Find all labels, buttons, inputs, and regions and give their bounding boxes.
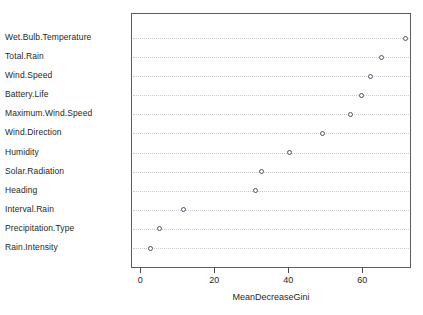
x-axis-tick-label: 40 <box>283 275 293 285</box>
y-axis-tick-label: Rain.Intensity <box>5 242 129 252</box>
gridline <box>133 95 409 96</box>
y-axis-category-labels: Wet.Bulb.TemperatureTotal.RainWind.Speed… <box>5 13 129 268</box>
data-point <box>253 188 258 193</box>
gridline <box>133 38 409 39</box>
gridline <box>133 172 409 173</box>
y-axis-tick-label: Humidity <box>5 147 129 157</box>
x-axis-title: MeanDecreaseGini <box>131 292 411 302</box>
y-axis-tick-label: Maximum.Wind.Speed <box>5 108 129 118</box>
data-point <box>403 36 408 41</box>
x-axis-tick <box>362 268 363 273</box>
data-point <box>368 74 373 79</box>
chart-title-clipped <box>131 0 411 9</box>
gridline <box>133 133 409 134</box>
y-axis-tick-label: Precipitation.Type <box>5 223 129 233</box>
data-point <box>379 55 384 60</box>
data-point <box>348 112 353 117</box>
y-axis-tick-label: Battery.Life <box>5 89 129 99</box>
gridline <box>133 114 409 115</box>
x-axis-tick <box>214 268 215 273</box>
gridline <box>133 210 409 211</box>
data-point <box>148 246 153 251</box>
y-axis-tick-label: Wind.Speed <box>5 70 129 80</box>
y-axis-tick-label: Heading <box>5 185 129 195</box>
data-point <box>259 169 264 174</box>
x-axis-tick <box>288 268 289 273</box>
gridline <box>133 191 409 192</box>
data-point <box>157 226 162 231</box>
data-point <box>287 150 292 155</box>
y-axis-tick-label: Wind.Direction <box>5 127 129 137</box>
gridline <box>133 248 409 249</box>
x-axis-tick-label: 60 <box>357 275 367 285</box>
gridline <box>133 229 409 230</box>
data-point <box>181 207 186 212</box>
y-axis-tick-label: Interval.Rain <box>5 204 129 214</box>
y-axis-tick-label: Wet.Bulb.Temperature <box>5 32 129 42</box>
gridline <box>133 153 409 154</box>
x-axis-tick-label: 20 <box>209 275 219 285</box>
data-point <box>359 93 364 98</box>
plot-panel <box>131 13 411 268</box>
data-point <box>320 131 325 136</box>
y-axis-tick-label: Total.Rain <box>5 51 129 61</box>
gridline <box>133 57 409 58</box>
x-axis-tick <box>140 268 141 273</box>
y-axis-tick-label: Solar.Radiation <box>5 166 129 176</box>
variable-importance-dot-plot: Wet.Bulb.TemperatureTotal.RainWind.Speed… <box>0 0 423 315</box>
plot-area <box>132 14 410 267</box>
x-axis-tick-label: 0 <box>138 275 143 285</box>
